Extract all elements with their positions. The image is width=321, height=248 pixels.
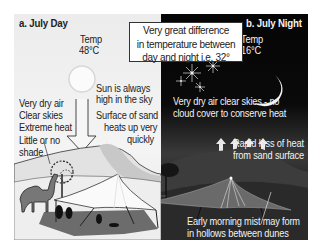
day-title: a. July Day bbox=[19, 18, 68, 30]
day-temp-value: 48°C bbox=[79, 45, 99, 57]
night-temp-value: 16°C bbox=[241, 45, 261, 57]
temperature-difference-callout: Very great difference in temperature bet… bbox=[129, 22, 243, 62]
night-title: b. July Night bbox=[246, 18, 302, 30]
sun-icon bbox=[69, 66, 95, 92]
